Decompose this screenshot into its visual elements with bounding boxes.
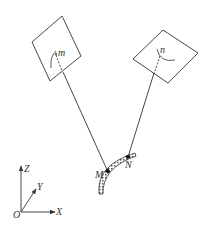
point-M-label: M [94, 169, 104, 180]
x-axis-label: X [55, 206, 63, 217]
left-plane: m [32, 16, 81, 81]
point-m-label: m [58, 47, 65, 58]
right-plane-square [133, 30, 198, 83]
z-axis-label: Z [24, 163, 30, 174]
line-plane-m-to-M [63, 72, 108, 172]
line-plane-n-to-N [128, 73, 154, 157]
right-plane-dashed-projection [154, 56, 160, 74]
point-m-dot [55, 53, 57, 55]
right-plane: n [133, 30, 198, 83]
diagram-canvas: m n M N Z Y X O [0, 0, 211, 230]
y-axis [21, 189, 36, 212]
origin-label: O [13, 209, 20, 220]
point-n-label: n [160, 44, 165, 55]
left-plane-square [32, 16, 81, 81]
coordinate-axes: Z Y X O [13, 163, 63, 220]
curved-tube: M N [94, 153, 136, 194]
y-axis-label: Y [37, 181, 44, 192]
point-N-label: N [124, 159, 133, 170]
